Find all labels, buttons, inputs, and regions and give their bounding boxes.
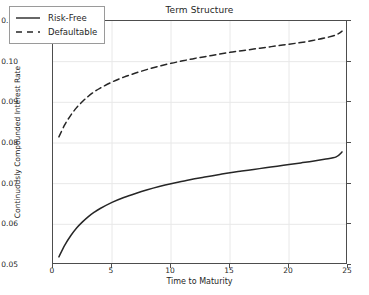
x-tick-mark bbox=[288, 264, 289, 268]
legend-swatch-solid-line bbox=[15, 13, 41, 23]
plot-area bbox=[52, 20, 347, 264]
y-tick-label: 0.10 bbox=[1, 56, 18, 65]
legend-item-risk-free: Risk-Free bbox=[15, 11, 97, 25]
series-line-defaultable bbox=[59, 31, 342, 137]
y-tick-label: 0.09 bbox=[1, 97, 18, 106]
x-tick-mark bbox=[52, 264, 53, 268]
chart-legend: Risk-Free Defaultable bbox=[9, 6, 105, 44]
x-tick-mark bbox=[170, 264, 171, 268]
y-tick-mark bbox=[347, 264, 351, 265]
y-tick-mark bbox=[347, 142, 351, 143]
data-series-lines bbox=[53, 21, 347, 264]
y-tick-label: 0.05 bbox=[1, 260, 18, 269]
y-tick-mark bbox=[347, 223, 351, 224]
x-tick-mark bbox=[229, 264, 230, 268]
x-tick-mark bbox=[111, 264, 112, 268]
y-tick-mark bbox=[347, 183, 351, 184]
legend-item-defaultable: Defaultable bbox=[15, 25, 97, 39]
y-tick-label: 0.06 bbox=[1, 219, 18, 228]
x-axis-label: Time to Maturity bbox=[52, 277, 347, 286]
legend-label-risk-free: Risk-Free bbox=[48, 13, 87, 23]
y-tick-label: 0.08 bbox=[1, 138, 18, 147]
series-line-risk-free bbox=[59, 152, 342, 257]
legend-swatch-dashed-line bbox=[15, 27, 41, 37]
y-tick-mark bbox=[347, 61, 351, 62]
y-tick-label: 0.07 bbox=[1, 178, 18, 187]
chart-figure: Term Structure Continuously Compounded I… bbox=[0, 0, 369, 295]
y-tick-mark bbox=[347, 20, 351, 21]
legend-label-defaultable: Defaultable bbox=[48, 27, 97, 37]
y-tick-mark bbox=[347, 101, 351, 102]
